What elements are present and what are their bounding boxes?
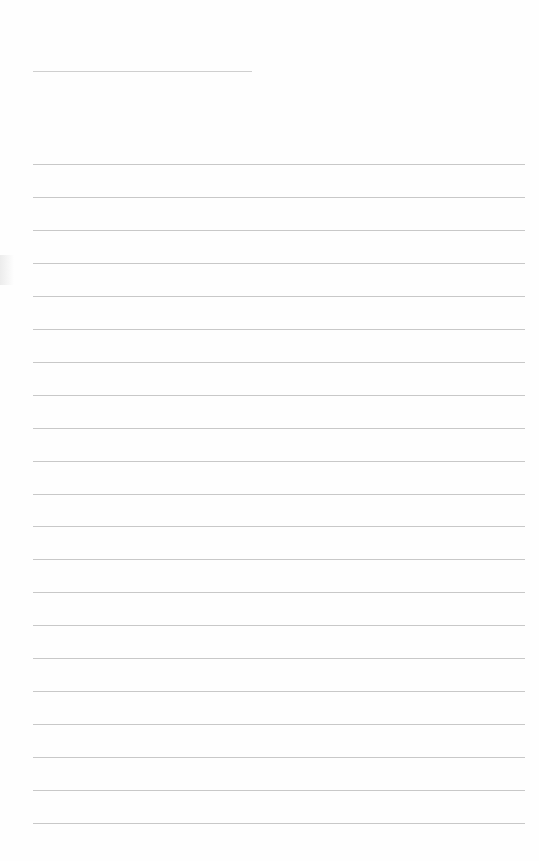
ruled-line <box>33 691 525 692</box>
ruled-line <box>33 395 525 396</box>
ruled-line <box>33 526 525 527</box>
ruled-line <box>33 494 525 495</box>
ruled-line <box>33 790 525 791</box>
ruled-line <box>33 329 525 330</box>
ruled-line <box>33 362 525 363</box>
ruled-line <box>33 296 525 297</box>
ruled-line <box>33 263 525 264</box>
ruled-line <box>33 724 525 725</box>
ruled-line <box>33 428 525 429</box>
ruled-line <box>33 592 525 593</box>
ruled-line <box>33 461 525 462</box>
ruled-line <box>33 164 525 165</box>
ruled-line <box>33 757 525 758</box>
ruled-line <box>33 230 525 231</box>
scan-edge-shadow <box>0 255 14 285</box>
ruled-line <box>33 823 525 824</box>
lined-paper-page <box>0 0 539 861</box>
ruled-line <box>33 625 525 626</box>
ruled-line <box>33 197 525 198</box>
ruled-line <box>33 559 525 560</box>
ruled-line <box>33 658 525 659</box>
header-rule <box>33 71 252 72</box>
